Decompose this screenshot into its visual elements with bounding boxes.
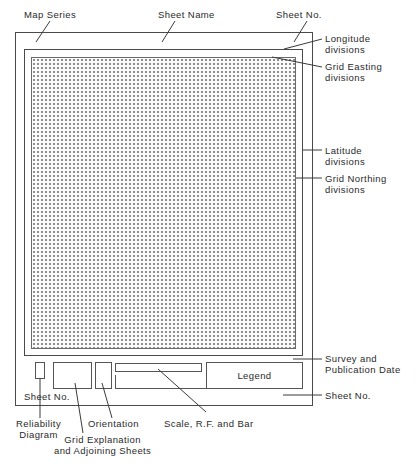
label-orientation: Orientation [88,418,139,429]
label-longitude-divisions: Longitude divisions [325,33,370,55]
label-sheet-name: Sheet Name [158,9,215,20]
label-latitude-divisions: Latitude divisions [325,145,365,167]
label-map-series: Map Series [24,9,76,20]
label-grid-easting-divisions: Grid Easting divisions [325,61,382,83]
label-grid-explanation: Grid Explanation and Adjoining Sheets [54,434,151,456]
label-sheet-no-top: Sheet No. [276,9,322,20]
label-scale-rf-bar: Scale, R.F. and Bar [164,418,253,429]
label-survey-publication-date: Survey and Publication Date [325,353,401,375]
label-grid-northing-divisions: Grid Northing divisions [325,173,387,195]
label-sheet-no-bottom-right: Sheet No. [325,390,371,401]
label-sheet-no-bottom-left: Sheet No. [24,391,70,402]
